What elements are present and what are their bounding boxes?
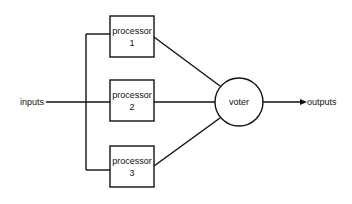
processor-2-label: processor xyxy=(112,90,152,100)
processor-2-box xyxy=(110,80,154,121)
processor-3-label: processor xyxy=(112,156,152,166)
input-label: inputs xyxy=(20,97,45,107)
processor-3-number: 3 xyxy=(129,168,134,178)
proc3-to-voter xyxy=(154,118,220,166)
processor-3-box xyxy=(110,146,154,187)
tmr-diagram: inputs outputs processor 1 processor 2 p… xyxy=(0,0,352,204)
processor-1-box xyxy=(110,16,154,57)
processor-2-number: 2 xyxy=(129,102,134,112)
processor-1-number: 1 xyxy=(129,38,134,48)
output-label: outputs xyxy=(307,97,337,107)
processor-1-label: processor xyxy=(112,26,152,36)
proc1-to-voter xyxy=(154,37,220,86)
output-arrowhead-icon xyxy=(300,99,307,105)
voter-label: voter xyxy=(229,97,249,107)
